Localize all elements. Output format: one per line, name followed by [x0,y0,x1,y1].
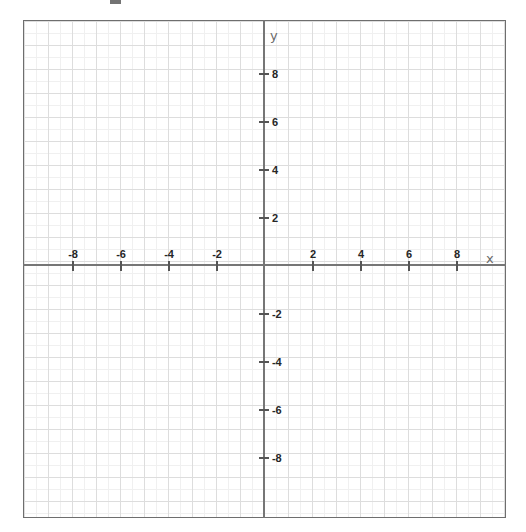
y-axis-tick [259,217,269,219]
y-axis-tick [259,121,269,123]
x-tick-label: -2 [212,248,221,260]
y-axis-tick [259,73,269,75]
y-axis-line [263,20,265,518]
y-tick-label: 4 [272,164,278,176]
x-tick-label: -8 [68,248,77,260]
x-axis-tick [168,261,170,271]
x-tick-label: 2 [310,248,316,260]
x-tick-label: 8 [454,248,460,260]
y-axis-tick [259,409,269,411]
x-tick-label: 6 [406,248,412,260]
x-tick-label: -4 [164,248,173,260]
y-axis-tick [259,313,269,315]
x-axis-label: x [486,251,494,266]
x-tick-label: -6 [116,248,125,260]
x-axis-tick [408,261,410,271]
x-tick-label: 4 [358,248,364,260]
clipped-glyph-artifact [110,0,121,4]
x-axis-tick [360,261,362,271]
y-tick-label: -8 [272,452,281,464]
y-tick-label: -4 [272,356,281,368]
x-axis-tick [312,261,314,271]
x-axis-tick [456,261,458,271]
y-tick-label: 8 [272,68,278,80]
y-axis-tick [259,361,269,363]
y-tick-label: -2 [272,308,281,320]
coordinate-plane-canvas: -8-6-4-224688642-2-4-6-8 y x [0,0,526,532]
x-axis-tick [120,261,122,271]
y-tick-label: 2 [272,212,278,224]
y-axis-tick [259,457,269,459]
y-tick-label: -6 [272,404,281,416]
x-axis-tick [72,261,74,271]
y-tick-label: 6 [272,116,278,128]
x-axis-tick [216,261,218,271]
y-axis-label: y [270,28,278,43]
y-axis-tick [259,169,269,171]
